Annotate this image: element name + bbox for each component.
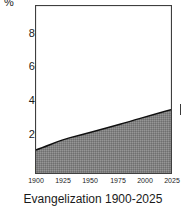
evangelization-area-chart-figure: % 80 60 40 20 0 190	[0, 0, 186, 208]
x-axis-tick-label-1950: 1950	[75, 177, 105, 185]
area-series-svg	[35, 5, 172, 174]
y-axis-unit-label: %	[4, 0, 14, 8]
x-axis-tick-label-1900: 1900	[21, 177, 51, 185]
x-axis-tick-label-2025: 2025	[157, 177, 186, 185]
plot-area	[35, 5, 172, 174]
right-edge-clipped-marker	[180, 104, 186, 115]
x-axis-tick-label-1975: 1975	[103, 177, 133, 185]
x-axis-tick-label-1925: 1925	[48, 177, 78, 185]
figure-caption: Evangelization 1900-2025	[0, 192, 186, 206]
x-axis-tick-label-2000: 2000	[130, 177, 160, 185]
